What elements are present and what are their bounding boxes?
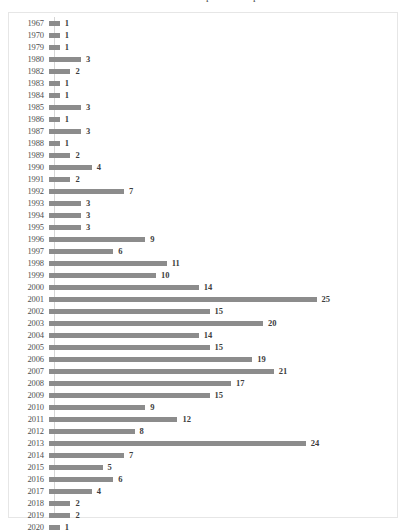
category-label: 1979 [9, 41, 49, 53]
bar-value-label: 3 [81, 221, 90, 233]
bar [49, 477, 113, 482]
bar-value-label: 1 [60, 521, 69, 530]
bar [49, 165, 92, 170]
category-label: 2006 [9, 353, 49, 365]
bar-row: 20201 [9, 521, 397, 530]
bar [49, 393, 210, 398]
bar [49, 345, 210, 350]
bar-track: 1 [49, 89, 397, 101]
bar-row: 19976 [9, 245, 397, 257]
bar-track: 2 [49, 149, 397, 161]
bar-track: 1 [49, 137, 397, 149]
bar-value-label: 14 [199, 281, 213, 293]
bar-value-label: 15 [210, 305, 224, 317]
bar-row: 19803 [9, 53, 397, 65]
bar-track: 9 [49, 401, 397, 413]
bar-track: 4 [49, 161, 397, 173]
bar-value-label: 21 [274, 365, 288, 377]
bar-track: 3 [49, 221, 397, 233]
bar [49, 237, 145, 242]
category-label: 1986 [9, 113, 49, 125]
bar [49, 381, 231, 386]
bar-track: 1 [49, 29, 397, 41]
bar-row: 19873 [9, 125, 397, 137]
bar [49, 81, 60, 86]
bar [49, 309, 210, 314]
chart-page: Dis. de amistad escolar por año de publi… [0, 0, 408, 530]
category-label: 1989 [9, 149, 49, 161]
category-label: 2012 [9, 425, 49, 437]
bar-track: 3 [49, 101, 397, 113]
bar-value-label: 4 [92, 161, 101, 173]
category-label: 2017 [9, 485, 49, 497]
bar-row: 200414 [9, 329, 397, 341]
bar-rows: 1967119701197911980319822198311984119853… [9, 17, 397, 530]
bar-track: 21 [49, 365, 397, 377]
bar-value-label: 6 [113, 245, 122, 257]
bar [49, 213, 81, 218]
bar-value-label: 2 [70, 65, 79, 77]
bar [49, 369, 274, 374]
category-label: 2004 [9, 329, 49, 341]
bar-value-label: 19 [252, 353, 266, 365]
bar-value-label: 1 [60, 77, 69, 89]
bar-track: 3 [49, 53, 397, 65]
bar-value-label: 1 [60, 89, 69, 101]
bar [49, 201, 81, 206]
category-label: 1988 [9, 137, 49, 149]
bar-value-label: 15 [210, 341, 224, 353]
category-label: 1998 [9, 257, 49, 269]
bar-value-label: 14 [199, 329, 213, 341]
bar-row: 200619 [9, 353, 397, 365]
bar-track: 3 [49, 125, 397, 137]
bar-value-label: 2 [70, 173, 79, 185]
bar-value-label: 3 [81, 53, 90, 65]
bar-value-label: 1 [60, 113, 69, 125]
bar-row: 201324 [9, 437, 397, 449]
bar [49, 453, 124, 458]
bar [49, 417, 177, 422]
category-label: 1983 [9, 77, 49, 89]
bar-value-label: 9 [145, 233, 154, 245]
bar [49, 513, 70, 518]
category-label: 1992 [9, 185, 49, 197]
bar-track: 12 [49, 413, 397, 425]
bar-value-label: 4 [92, 485, 101, 497]
bar-track: 7 [49, 449, 397, 461]
bar-row: 19933 [9, 197, 397, 209]
bar [49, 93, 60, 98]
bar-track: 1 [49, 17, 397, 29]
bar-value-label: 8 [135, 425, 144, 437]
bar-value-label: 1 [60, 137, 69, 149]
bar-row: 19912 [9, 173, 397, 185]
bar-value-label: 15 [210, 389, 224, 401]
bar-row: 19822 [9, 65, 397, 77]
category-label: 2000 [9, 281, 49, 293]
bar-value-label: 17 [231, 377, 245, 389]
category-label: 2013 [9, 437, 49, 449]
bar [49, 333, 199, 338]
bar [49, 321, 263, 326]
category-label: 1967 [9, 17, 49, 29]
category-label: 2003 [9, 317, 49, 329]
bar-row: 19881 [9, 137, 397, 149]
category-label: 1996 [9, 233, 49, 245]
bar-row: 20155 [9, 461, 397, 473]
category-label: 1982 [9, 65, 49, 77]
category-label: 2019 [9, 509, 49, 521]
category-label: 2008 [9, 377, 49, 389]
category-label: 1990 [9, 161, 49, 173]
bar [49, 429, 135, 434]
bar-row: 20192 [9, 509, 397, 521]
category-label: 1994 [9, 209, 49, 221]
bar-track: 20 [49, 317, 397, 329]
category-label: 2010 [9, 401, 49, 413]
bar-value-label: 20 [263, 317, 277, 329]
bar-track: 8 [49, 425, 397, 437]
bar [49, 501, 70, 506]
bar-row: 200215 [9, 305, 397, 317]
bar-row: 200320 [9, 317, 397, 329]
bar-row: 19671 [9, 17, 397, 29]
bar-row: 200125 [9, 293, 397, 305]
category-label: 2011 [9, 413, 49, 425]
